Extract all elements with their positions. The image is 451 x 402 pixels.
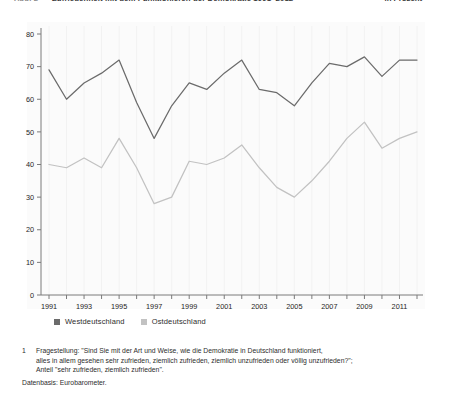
- y-axis-tick-label: 50: [26, 128, 34, 137]
- x-axis-tick-label: 2005: [286, 302, 302, 311]
- x-axis-tick-label: 2009: [356, 302, 372, 311]
- legend-swatch-westdeutschland: [54, 319, 60, 325]
- figure-page: Abb. 2 Zufriedenheit mit dem Funktionier…: [0, 0, 451, 402]
- x-axis-tick-label: 1997: [146, 302, 162, 311]
- footnote-marker: 1: [22, 346, 36, 356]
- series-line-westdeutschland: [49, 57, 417, 139]
- chart-svg: 0102030405060708019911993199519971999200…: [0, 0, 451, 402]
- legend-label-ostdeutschland: Ostdeutschland: [152, 317, 206, 326]
- footnote-source: Datenbasis: Eurobarometer.: [22, 378, 442, 388]
- x-axis-tick-label: 2003: [251, 302, 267, 311]
- y-axis-tick-label: 30: [26, 193, 34, 202]
- x-axis-tick-label: 2007: [321, 302, 337, 311]
- legend-label-westdeutschland: Westdeutschland: [65, 317, 125, 326]
- x-axis-tick-label: 1999: [181, 302, 197, 311]
- y-axis-tick-label: 0: [30, 291, 34, 300]
- footnote-note: 1 Fragestellung: "Sind Sie mit der Art u…: [22, 346, 442, 375]
- footnote-line-2: alles in allem gesehen sehr zufrieden, z…: [36, 357, 353, 364]
- x-axis-tick-label: 1995: [111, 302, 127, 311]
- figure-footnote: 1 Fragestellung: "Sind Sie mit der Art u…: [22, 346, 442, 387]
- line-chart: 0102030405060708019911993199519971999200…: [0, 0, 451, 402]
- x-axis-tick-label: 2011: [392, 302, 408, 311]
- x-axis-tick-label: 1991: [41, 302, 57, 311]
- legend-swatch-ostdeutschland: [141, 319, 147, 325]
- footnote-line-3: Anteil "sehr zufrieden, ziemlich zufried…: [36, 366, 164, 373]
- y-axis-tick-label: 70: [26, 62, 34, 71]
- y-axis-tick-label: 80: [26, 30, 34, 39]
- x-axis-tick-label: 2001: [216, 302, 232, 311]
- series-line-ostdeutschland: [49, 122, 417, 204]
- legend-item-westdeutschland[interactable]: Westdeutschland: [54, 317, 125, 326]
- x-axis-tick-label: 1993: [76, 302, 92, 311]
- y-axis-tick-label: 60: [26, 95, 34, 104]
- legend-item-ostdeutschland[interactable]: Ostdeutschland: [141, 317, 206, 326]
- chart-legend: Westdeutschland Ostdeutschland: [54, 317, 206, 326]
- y-axis-tick-label: 40: [26, 160, 34, 169]
- footnote-body: Fragestellung: "Sind Sie mit der Art und…: [36, 346, 442, 375]
- footnote-line-1: Fragestellung: "Sind Sie mit der Art und…: [36, 347, 323, 354]
- y-axis-tick-label: 10: [26, 258, 34, 267]
- y-axis-tick-label: 20: [26, 225, 34, 234]
